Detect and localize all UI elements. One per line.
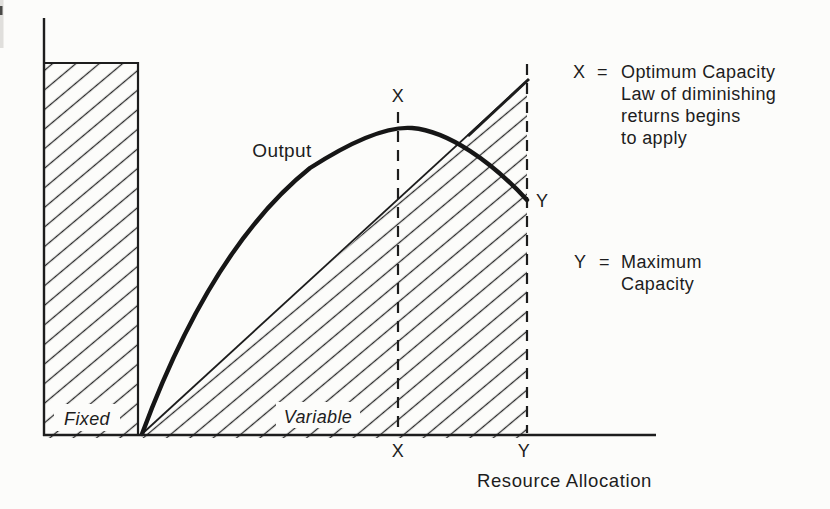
x-axis-title: Resource Allocation xyxy=(477,470,652,491)
legend-x-line1: Optimum Capacity xyxy=(621,62,775,82)
legend-y-definition: Y = Maximum Capacity xyxy=(574,252,702,294)
legend-x-symbol: X xyxy=(573,62,585,82)
fixed-region-label: Fixed xyxy=(64,409,111,429)
legend-y-line1: Maximum xyxy=(621,252,702,272)
y-marker-axis-label: Y xyxy=(518,441,530,461)
legend-x-line3: returns begins xyxy=(621,106,741,126)
fixed-cost-region xyxy=(44,63,138,438)
y-marker-curve-label: Y xyxy=(536,191,548,211)
variable-cost-region xyxy=(142,79,529,438)
x-marker-top-label: X xyxy=(392,86,404,106)
legend-x-line4: to apply xyxy=(621,128,687,148)
capacity-chart: Output Fixed Variable X Y X Y Resource A… xyxy=(0,0,830,509)
legend-y-equals: = xyxy=(599,252,610,272)
x-marker-axis-label: X xyxy=(392,441,404,461)
legend-y-line2: Capacity xyxy=(621,274,694,294)
legend-x-equals: = xyxy=(597,62,608,82)
scan-artifact xyxy=(0,0,4,48)
legend-x-definition: X = Optimum Capacity Law of diminishing … xyxy=(573,62,776,148)
legend-x-line2: Law of diminishing xyxy=(621,84,776,104)
variable-region-label: Variable xyxy=(284,407,353,427)
output-curve-label: Output xyxy=(252,140,312,161)
legend-y-symbol: Y xyxy=(574,252,586,272)
scanned-figure-page: Output Fixed Variable X Y X Y Resource A… xyxy=(0,0,830,509)
